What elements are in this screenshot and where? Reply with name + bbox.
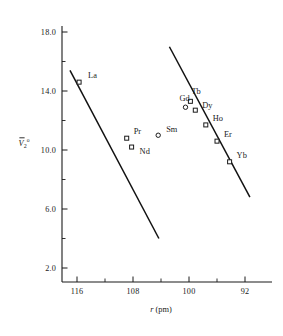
lower-right-series-fit (169, 47, 250, 197)
axis-titles: r (pm)V2o (19, 137, 172, 314)
axis-tick-labels: 18.014.010.06.02.011610810092 (41, 28, 249, 296)
x-tick-label: 108 (127, 287, 140, 296)
y-tick-label: 14.0 (41, 87, 56, 96)
axis-ticks (62, 32, 245, 282)
data-points (77, 80, 232, 164)
data-marker-dy (193, 108, 197, 112)
y-axis-title: V2o (19, 137, 30, 149)
point-label-ho: Ho (213, 114, 223, 123)
y-tick-label: 10.0 (41, 146, 56, 155)
data-marker-sm (156, 133, 160, 137)
data-marker-nd (130, 145, 134, 149)
point-label-yb: Yb (237, 151, 247, 160)
data-marker-la (77, 80, 81, 84)
x-axis-title: r (pm) (150, 305, 172, 314)
point-label-nd: Nd (140, 147, 151, 156)
point-label-la: La (88, 71, 97, 80)
data-marker-gd (183, 105, 187, 109)
x-tick-label: 100 (183, 287, 196, 296)
point-label-er: Er (224, 130, 232, 139)
chart-figure: 18.014.010.06.02.011610810092 LaPrNdSmGd… (0, 0, 283, 336)
y-tick-label: 18.0 (41, 28, 56, 37)
x-tick-label: 92 (241, 287, 250, 296)
data-marker-yb (228, 160, 232, 164)
fit-lines (70, 47, 250, 239)
scatter-plot: 18.014.010.06.02.011610810092 LaPrNdSmGd… (0, 0, 283, 336)
point-label-gd: Gd (180, 94, 191, 103)
point-label-pr: Pr (134, 127, 142, 136)
data-marker-pr (125, 136, 129, 140)
point-label-tb: Tb (191, 87, 200, 96)
x-tick-label: 116 (71, 287, 84, 296)
point-label-dy: Dy (202, 101, 213, 110)
y-tick-label: 6.0 (45, 205, 56, 214)
data-marker-ho (204, 123, 208, 127)
point-label-sm: Sm (166, 125, 178, 134)
data-marker-er (215, 139, 219, 143)
y-tick-label: 2.0 (45, 264, 56, 273)
